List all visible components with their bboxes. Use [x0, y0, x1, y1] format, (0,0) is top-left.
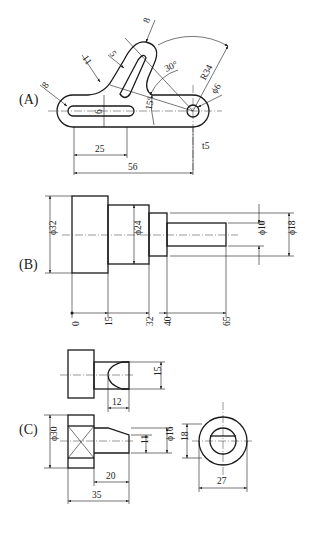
- dim-a-curved-slot-width: 5: [108, 49, 119, 59]
- dim-c-top-height: 15: [153, 366, 163, 376]
- dim-b-pos-32: 32: [145, 316, 155, 326]
- dim-b-pos-15: 15: [104, 316, 114, 326]
- part-b-drawing: [45, 196, 294, 318]
- dim-c-dia-head: ϕ30: [49, 426, 59, 441]
- dim-c-side-height: 18: [180, 431, 190, 441]
- dim-b-dia-small: ϕ10: [257, 220, 267, 235]
- dim-b-pos-0: 0: [71, 321, 81, 326]
- dim-b-pos-65: 65: [222, 316, 232, 326]
- engineering-drawing: 8 11 5 8 30° 15° R34 ϕ6 6 25 56 t5: [0, 0, 317, 533]
- dim-b-pos-40: 40: [163, 316, 173, 326]
- part-a-drawing: [40, 20, 228, 175]
- dim-b-dia-mid: ϕ24: [133, 220, 143, 235]
- dim-b-dia-large: ϕ32: [48, 220, 58, 235]
- dim-a-hole: ϕ6: [209, 81, 223, 95]
- dim-a-angle-lower: 15°: [144, 96, 156, 111]
- dim-a-angle-upper: 30°: [163, 59, 179, 74]
- dim-a-arm-width: 8: [141, 16, 152, 24]
- dim-a-slot-length: 25: [95, 144, 105, 154]
- dim-a-slot-width: 6: [94, 109, 104, 114]
- dim-a-thickness: t5: [202, 141, 210, 151]
- dim-c-dia-shaft: ϕ16: [165, 426, 175, 441]
- dim-c-overall-length: 35: [92, 490, 102, 500]
- dim-a-slot-radius: 8: [40, 80, 51, 90]
- dim-b-dia-step: ϕ18: [287, 220, 297, 235]
- dim-c-side-width: 27: [217, 476, 227, 486]
- dim-c-flat-height: 11: [140, 435, 150, 444]
- dim-c-shaft-length: 20: [106, 471, 116, 481]
- dim-a-overall-length: 56: [128, 162, 138, 172]
- dim-a-radius: R34: [198, 63, 214, 82]
- dim-c-top-length: 12: [112, 397, 122, 407]
- part-c-front-view: [44, 415, 172, 504]
